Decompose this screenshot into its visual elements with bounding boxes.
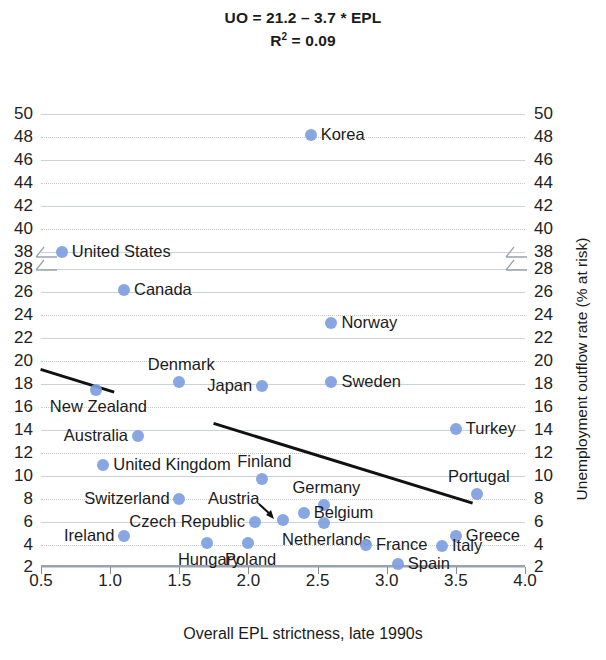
y-axis-tick-label: 38 [0, 243, 33, 260]
y-axis-tick-label: 4 [0, 536, 33, 553]
regression-trendline [40, 368, 114, 393]
data-point-label: Korea [321, 126, 365, 143]
y-axis-tick-label: 20 [0, 352, 33, 369]
data-point-marker[interactable] [450, 423, 462, 435]
data-point-label: Poland [225, 551, 276, 568]
data-point-marker[interactable] [132, 430, 144, 442]
y-axis-tick-label-right: 18 [534, 375, 567, 392]
data-point-marker[interactable] [325, 317, 337, 329]
y-axis-tick-label: 24 [0, 306, 33, 323]
x-axis-tick-label: 0.5 [11, 572, 71, 589]
y-axis-tick-label-right: 22 [534, 329, 567, 346]
data-point-label: Norway [341, 314, 397, 331]
gridline [41, 384, 525, 385]
y-axis-tick-label-right: 26 [534, 283, 567, 300]
data-point-marker[interactable] [118, 284, 130, 296]
y-axis-tick-label-right: 20 [534, 352, 567, 369]
y-axis-tick-label-right: 38 [534, 243, 567, 260]
y-axis-tick-label-right: 50 [534, 105, 567, 122]
y-axis-tick-label-right: 10 [534, 467, 567, 484]
y-axis-tick-label-right: 48 [534, 128, 567, 145]
y-axis-tick-label-right: 46 [534, 151, 567, 168]
data-point-label: Netherlands [282, 531, 371, 548]
data-point-marker[interactable] [256, 380, 268, 392]
axis-break-mark [505, 246, 531, 268]
gridline [41, 338, 525, 339]
x-axis-tick-label: 4.0 [495, 572, 555, 589]
data-point-label: Germany [292, 479, 360, 496]
y-axis-tick-label-right: 14 [534, 421, 567, 438]
y-axis-tick-label-right: 6 [534, 513, 567, 530]
data-point-marker[interactable] [360, 539, 372, 551]
data-point-marker[interactable] [298, 507, 310, 519]
data-point-label: Australia [64, 427, 128, 444]
x-axis-tick-label: 2.0 [218, 572, 278, 589]
y-axis-tick-label: 22 [0, 329, 33, 346]
data-point-marker[interactable] [242, 537, 254, 549]
x-axis-line [41, 565, 525, 567]
scatter-chart-figure: UO = 21.2 – 3.7 * EPL R2 = 0.09 KoreaUni… [0, 0, 606, 660]
y-axis-tick-label: 44 [0, 174, 33, 191]
data-point-label: Switzerland [84, 490, 169, 507]
data-point-marker[interactable] [256, 473, 268, 485]
data-point-marker[interactable] [471, 488, 483, 500]
y-axis-tick-label: 8 [0, 490, 33, 507]
y-axis-tick-label: 40 [0, 220, 33, 237]
data-point-marker[interactable] [173, 376, 185, 388]
data-point-label: Czech Republic [129, 513, 245, 530]
data-point-marker[interactable] [436, 540, 448, 552]
gridline [41, 160, 525, 161]
gridline [41, 361, 525, 362]
data-point-marker[interactable] [118, 530, 130, 542]
data-point-label: Denmark [148, 356, 215, 373]
data-point-label: Sweden [341, 373, 401, 390]
y-axis-tick-label: 16 [0, 398, 33, 415]
data-point-marker[interactable] [318, 517, 330, 529]
data-point-marker[interactable] [305, 129, 317, 141]
x-axis-tick-label: 3.5 [426, 572, 486, 589]
data-point-label: Turkey [466, 420, 516, 437]
data-point-marker[interactable] [90, 384, 102, 396]
y-axis-tick-label: 10 [0, 467, 33, 484]
data-point-label: Canada [134, 281, 192, 298]
data-point-label: New Zealand [50, 398, 147, 415]
data-point-marker[interactable] [173, 493, 185, 505]
x-axis-tick-label: 1.0 [80, 572, 140, 589]
y-axis-tick-label: 6 [0, 513, 33, 530]
y-axis-tick-label-right: 4 [534, 536, 567, 553]
y-axis-tick-label-right: 12 [534, 444, 567, 461]
plot-area: KoreaUnited StatesCanadaNorwayDenmarkSwe… [41, 58, 525, 567]
data-point-label: United Kingdom [113, 456, 230, 473]
x-axis-tick-label: 2.5 [288, 572, 348, 589]
data-point-marker[interactable] [325, 376, 337, 388]
gridline [41, 183, 525, 184]
y-axis-tick-label: 18 [0, 375, 33, 392]
chart-title-equation: UO = 21.2 – 3.7 * EPL [225, 9, 382, 26]
data-point-marker[interactable] [392, 558, 404, 570]
y-axis-tick-label-right: 16 [534, 398, 567, 415]
y-axis-tick-label-right: 40 [534, 220, 567, 237]
y-axis-tick-label: 12 [0, 444, 33, 461]
data-point-marker[interactable] [97, 459, 109, 471]
gridline [41, 229, 525, 230]
y-axis-tick-label-right: 42 [534, 197, 567, 214]
y-axis-tick-label: 28 [0, 260, 33, 277]
gridline [41, 567, 525, 568]
y-axis-tick-label: 48 [0, 128, 33, 145]
data-point-marker[interactable] [249, 516, 261, 528]
data-point-label: Ireland [64, 527, 114, 544]
data-point-label: Portugal [448, 468, 509, 485]
data-point-marker[interactable] [201, 537, 213, 549]
gridline [41, 269, 525, 270]
gridline [41, 206, 525, 207]
data-point-label: Austria [208, 490, 259, 507]
data-point-label: Japan [207, 377, 252, 394]
y-axis-tick-label: 50 [0, 105, 33, 122]
y-axis-tick-label: 42 [0, 197, 33, 214]
axis-break-mark [35, 246, 61, 268]
y-axis-title: Unemployment outflow rate (% at risk) [572, 160, 592, 580]
gridline [41, 315, 525, 316]
gridline [41, 137, 525, 138]
y-axis-tick-label-right: 44 [534, 174, 567, 191]
data-point-label: France [376, 536, 427, 553]
